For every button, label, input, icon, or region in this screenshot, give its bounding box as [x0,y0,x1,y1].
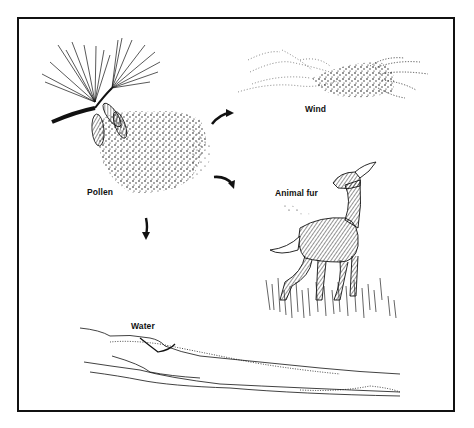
wind-pollen-cluster [312,62,394,97]
label-animal-fur: Animal fur [275,188,318,198]
arrow-to-animal-fur-icon [214,177,235,189]
pollen-dispersal-illustration [0,0,474,428]
deer-illustration [270,162,376,300]
arrow-to-wind-icon [212,109,234,124]
label-water: Water [131,321,155,331]
pollen-cloud [98,111,210,193]
label-wind: Wind [305,104,326,114]
arrow-to-water-icon [142,218,150,240]
fur-pollen-dots [282,202,310,215]
label-pollen: Pollen [87,187,113,197]
water-illustration [80,328,400,396]
